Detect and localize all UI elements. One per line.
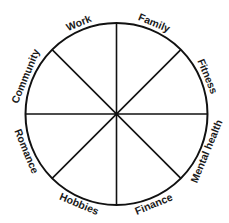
wheel-hub bbox=[115, 112, 119, 116]
segment-label-finance: Finance bbox=[133, 190, 174, 216]
segment-label-community: Community bbox=[8, 47, 41, 105]
life-wheel-diagram: Family Fitness Mental health Finance Hob… bbox=[0, 0, 229, 223]
segment-label-work: Work bbox=[64, 12, 93, 33]
segment-label-romance: Romance bbox=[12, 127, 41, 175]
segment-label-hobbies: Hobbies bbox=[58, 190, 101, 217]
